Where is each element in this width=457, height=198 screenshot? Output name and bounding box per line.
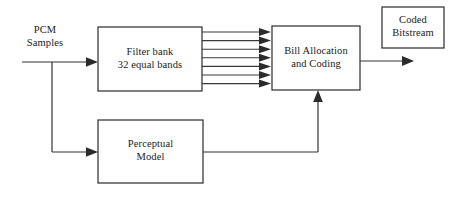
bit-allocation-label: Bill Allocation and Coding	[270, 45, 362, 71]
connection-perceptual-model-to-bit-allocation	[203, 90, 323, 152]
filter-bank-label: Filter bank 32 equal bands	[98, 46, 202, 72]
connection-subbands-to-bit-allocation	[202, 28, 271, 88]
connection-pcm-input-to-filter-bank	[22, 57, 98, 67]
connection-pcm-branch-to-perceptual-model	[52, 62, 98, 157]
perceptual-model-label: Perceptual Model	[98, 138, 203, 164]
diagram-canvas: PCM Samples Filter bank 32 equal bands B…	[0, 0, 457, 198]
pcm-samples-label: PCM Samples	[17, 24, 73, 50]
connection-bit-allocation-to-output	[360, 56, 414, 66]
coded-bitstream-label: Coded Bitstream	[382, 14, 444, 40]
